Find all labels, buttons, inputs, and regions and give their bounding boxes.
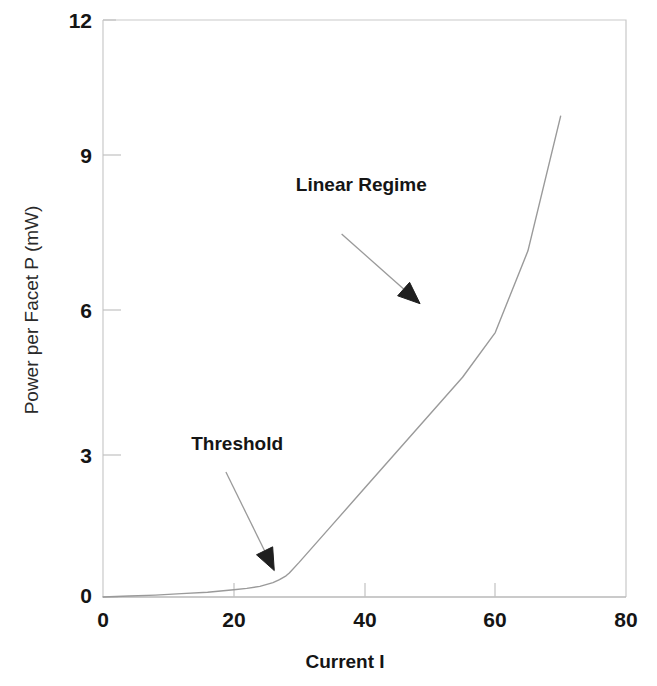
y-tick-label-12: 12	[69, 9, 92, 32]
plot-frame	[103, 20, 626, 597]
linear-regime-leader-line	[342, 234, 404, 289]
frame-top-right	[103, 20, 626, 597]
linear-regime-arrow-icon	[398, 282, 420, 303]
threshold-leader-line	[226, 472, 265, 551]
y-tick-label-6: 6	[80, 299, 92, 322]
y-tick-label-9: 9	[80, 144, 92, 167]
y-axis-ticks	[103, 20, 121, 597]
annotation-threshold: Threshold	[191, 433, 283, 570]
annotation-linear-regime: Linear Regime	[296, 174, 427, 304]
x-tick-label-0: 0	[97, 608, 109, 631]
x-tick-label-20: 20	[222, 608, 245, 631]
linear-regime-label: Linear Regime	[296, 174, 427, 195]
y-axis-title: Power per Facet P (mW)	[21, 206, 42, 415]
x-axis-title: Current I	[305, 651, 384, 672]
chart-figure: 12 9 6 3 0 0 20 40 60 80 Current I Power…	[0, 0, 657, 686]
y-tick-label-3: 3	[80, 444, 92, 467]
y-tick-label-0: 0	[80, 584, 92, 607]
x-tick-label-80: 80	[614, 608, 637, 631]
x-tick-labels: 0 20 40 60 80	[97, 608, 638, 631]
x-axis-ticks	[234, 583, 495, 597]
power-vs-current-chart: 12 9 6 3 0 0 20 40 60 80 Current I Power…	[0, 0, 657, 686]
threshold-label: Threshold	[191, 433, 283, 454]
x-tick-label-40: 40	[353, 608, 376, 631]
x-tick-label-60: 60	[483, 608, 506, 631]
threshold-arrow-icon	[257, 547, 275, 571]
y-tick-labels: 12 9 6 3 0	[69, 9, 92, 607]
